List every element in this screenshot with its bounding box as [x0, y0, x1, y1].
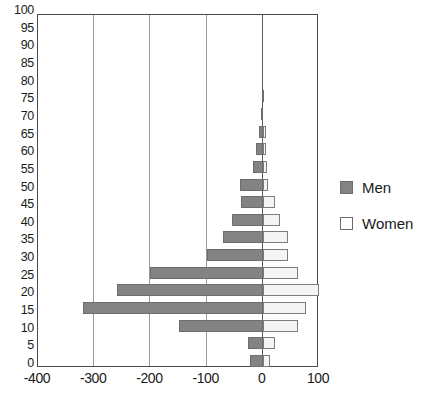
legend-item-men[interactable]: Men — [340, 180, 426, 195]
bar-men-age-75 — [262, 90, 264, 102]
bar-women-age-0 — [263, 355, 270, 367]
y-tick-label-5: 5 — [0, 339, 34, 352]
bar-women-age-20 — [263, 284, 319, 296]
bar-women-age-50 — [263, 179, 269, 191]
y-tick-label-40: 40 — [0, 216, 34, 229]
chart-legend: MenWomen — [340, 180, 426, 252]
y-tick-label-95: 95 — [0, 22, 34, 35]
bar-women-age-60 — [263, 143, 266, 155]
bar-women-age-45 — [263, 196, 275, 208]
y-tick-label-45: 45 — [0, 198, 34, 211]
legend-label: Men — [362, 180, 391, 195]
bar-women-age-35 — [263, 231, 288, 243]
bar-men-age-20 — [117, 284, 263, 296]
bar-men-age-0 — [250, 355, 263, 367]
bar-women-age-40 — [263, 214, 280, 226]
x-tick-label--300: -300 — [63, 370, 123, 386]
y-tick-label-30: 30 — [0, 251, 34, 264]
bar-men-age-5 — [248, 337, 263, 349]
bar-women-age-55 — [263, 161, 267, 173]
legend-label: Women — [362, 216, 413, 231]
population-pyramid-chart: 0510152025303540455055606570758085909510… — [0, 0, 427, 407]
bar-men-age-25 — [150, 267, 262, 279]
plot-area — [37, 14, 318, 367]
y-tick-label-75: 75 — [0, 92, 34, 105]
x-axis: -400-300-200-1000100 — [0, 370, 427, 394]
y-tick-label-80: 80 — [0, 75, 34, 88]
y-tick-label-25: 25 — [0, 269, 34, 282]
y-tick-label-20: 20 — [0, 286, 34, 299]
bar-women-age-30 — [263, 249, 288, 261]
bar-men-age-50 — [240, 179, 262, 191]
bar-men-age-35 — [223, 231, 262, 243]
bar-women-age-15 — [263, 302, 306, 314]
legend-item-women[interactable]: Women — [340, 216, 426, 231]
bar-men-age-70 — [261, 108, 263, 120]
y-tick-label-65: 65 — [0, 128, 34, 141]
y-tick-label-60: 60 — [0, 145, 34, 158]
x-tick-label--100: -100 — [176, 370, 236, 386]
x-tick-label-0: 0 — [232, 370, 292, 386]
bar-men-age-15 — [83, 302, 263, 314]
bar-men-age-45 — [241, 196, 262, 208]
bar-women-age-5 — [263, 337, 275, 349]
x-tick-label-100: 100 — [288, 370, 348, 386]
y-tick-label-35: 35 — [0, 233, 34, 246]
y-tick-label-90: 90 — [0, 39, 34, 52]
y-tick-label-85: 85 — [0, 57, 34, 70]
y-tick-label-15: 15 — [0, 304, 34, 317]
bar-men-age-55 — [253, 161, 263, 173]
x-tick-label--400: -400 — [7, 370, 67, 386]
bar-women-age-10 — [263, 320, 298, 332]
y-tick-label-55: 55 — [0, 163, 34, 176]
bar-women-age-25 — [263, 267, 298, 279]
y-tick-label-10: 10 — [0, 322, 34, 335]
y-tick-label-50: 50 — [0, 181, 34, 194]
y-axis: 0510152025303540455055606570758085909510… — [0, 0, 34, 381]
bar-women-age-65 — [263, 126, 266, 138]
bar-men-age-60 — [256, 143, 263, 155]
y-tick-label-70: 70 — [0, 110, 34, 123]
legend-swatch-women-icon — [340, 217, 353, 230]
legend-swatch-men-icon — [340, 181, 353, 194]
bar-men-age-10 — [179, 320, 263, 332]
y-tick-label-0: 0 — [0, 357, 34, 370]
x-tick-label--200: -200 — [119, 370, 179, 386]
bar-men-age-30 — [207, 249, 263, 261]
y-tick-label-100: 100 — [0, 4, 34, 17]
bar-men-age-40 — [232, 214, 263, 226]
